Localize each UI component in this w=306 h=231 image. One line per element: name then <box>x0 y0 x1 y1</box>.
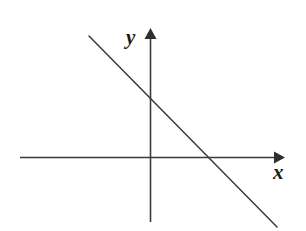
arrow-up-icon <box>145 28 157 39</box>
data-line-series-1 <box>89 36 277 227</box>
line-graph-figure: y x <box>0 0 306 231</box>
x-axis-label: x <box>273 162 284 183</box>
y-axis-label: y <box>126 27 135 48</box>
coordinate-plane-svg <box>0 0 306 231</box>
